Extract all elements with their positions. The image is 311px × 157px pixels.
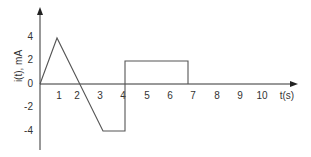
y-tick: -2 — [24, 101, 33, 112]
y-axis-label: i(t), mA — [13, 50, 24, 83]
y-tick: 0 — [27, 78, 33, 89]
x-tick: 2 — [74, 90, 80, 101]
chart: 4 2 0 -2 -4 1 2 3 4 5 6 7 8 9 10 t(s) i(… — [0, 0, 311, 157]
x-tick: 10 — [256, 90, 268, 101]
x-tick: 6 — [167, 90, 173, 101]
y-tick: -4 — [24, 125, 33, 136]
y-axis-arrow-icon — [37, 7, 43, 15]
x-tick: 7 — [190, 90, 196, 101]
x-tick-labels: 1 2 3 4 5 6 7 8 9 10 — [56, 90, 268, 101]
y-tick: 4 — [27, 31, 33, 42]
x-tick: 5 — [144, 90, 150, 101]
x-axis-label: t(s) — [280, 90, 294, 101]
y-tick-labels: 4 2 0 -2 -4 — [24, 31, 33, 136]
x-tick: 3 — [97, 90, 103, 101]
x-tick: 9 — [237, 90, 243, 101]
y-tick: 2 — [27, 54, 33, 65]
x-tick: 1 — [56, 90, 62, 101]
x-axis-arrow-icon — [290, 81, 298, 87]
x-tick: 8 — [214, 90, 220, 101]
